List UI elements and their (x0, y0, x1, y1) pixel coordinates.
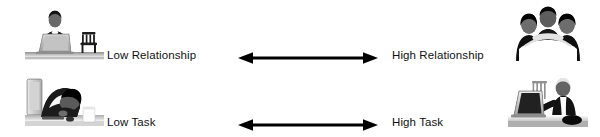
label-low-relationship: Low Relationship (107, 50, 196, 62)
photo-person-working-actively-at-laptop (508, 73, 588, 131)
photo-team-group-hug (505, 4, 589, 64)
double-headed-arrow-relationship (238, 48, 378, 64)
label-high-task: High Task (392, 117, 443, 129)
continuum-row-relationship: Low Relationship High Relationship (0, 4, 600, 66)
continuum-row-task: Low Task High Task (0, 71, 600, 133)
label-low-task: Low Task (107, 117, 156, 129)
photo-man-alone-at-laptop-with-empty-chair (25, 6, 104, 64)
continuum-diagram: Low Relationship High Relationship (0, 0, 600, 137)
double-headed-arrow-task (238, 115, 378, 131)
photo-person-asleep-slumped-at-desk (25, 75, 104, 130)
label-high-relationship: High Relationship (392, 50, 484, 62)
